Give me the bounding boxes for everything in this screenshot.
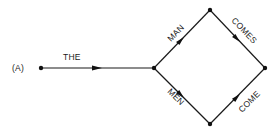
edge-label-men: MEN — [166, 86, 187, 107]
arrow-icon-the — [92, 66, 102, 71]
edge-label-man: MAN — [165, 22, 186, 43]
node-top — [208, 8, 212, 12]
node-branch — [152, 66, 156, 70]
edge-label-comes: COMES — [230, 15, 260, 45]
node-end — [263, 66, 267, 70]
node-bottom — [208, 122, 212, 126]
node-start — [39, 66, 43, 70]
word-transition-network: (A) THE MAN COMES MEN COME — [0, 0, 279, 135]
edge-label-the: THE — [63, 52, 81, 62]
figure-label: (A) — [12, 63, 24, 73]
